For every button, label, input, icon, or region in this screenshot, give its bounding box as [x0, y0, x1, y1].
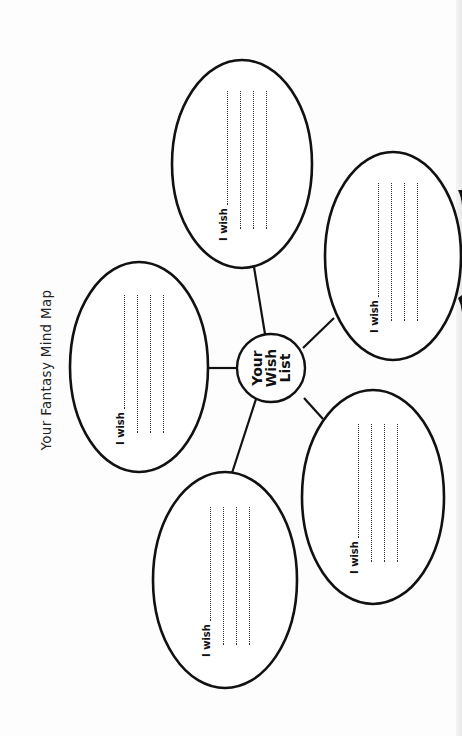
write-line[interactable]	[150, 295, 151, 433]
edge-shadow-bottom	[458, 295, 462, 320]
center-label-line: Your	[250, 349, 264, 388]
connector-lower-left	[232, 399, 256, 473]
write-line[interactable]	[124, 295, 125, 409]
write-line[interactable]	[378, 183, 379, 297]
connector-lower-right	[304, 398, 323, 419]
write-line[interactable]	[404, 183, 405, 321]
write-line[interactable]	[384, 424, 385, 562]
write-line[interactable]	[210, 507, 211, 621]
write-line[interactable]	[397, 424, 398, 562]
worksheet-title: Your Fantasy Mind Map	[38, 290, 54, 451]
write-line[interactable]	[417, 183, 418, 321]
write-line[interactable]	[266, 91, 267, 229]
edge-shadow-top	[458, 190, 462, 215]
center-label-line: List	[278, 349, 292, 388]
write-line[interactable]	[391, 183, 392, 321]
worksheet-page: Your Fantasy Mind Map Your Wish List I w…	[0, 0, 462, 736]
connector-top	[254, 267, 265, 334]
write-line[interactable]	[137, 295, 138, 433]
write-line[interactable]	[163, 295, 164, 433]
connector-upper-right	[303, 318, 334, 348]
wish-prompt: I wish	[350, 541, 360, 574]
wish-prompt: I wish	[219, 208, 229, 241]
write-line[interactable]	[371, 424, 372, 562]
write-line[interactable]	[240, 91, 241, 229]
write-line[interactable]	[253, 91, 254, 229]
write-line[interactable]	[223, 507, 224, 645]
write-line[interactable]	[358, 424, 359, 538]
center-label: Your Wish List	[250, 349, 292, 388]
write-line[interactable]	[236, 507, 237, 645]
wish-prompt: I wish	[370, 300, 380, 333]
write-line[interactable]	[249, 507, 250, 645]
wish-prompt: I wish	[116, 412, 126, 445]
write-line[interactable]	[227, 91, 228, 205]
center-label-line: Wish	[264, 349, 278, 388]
wish-prompt: I wish	[202, 624, 212, 657]
